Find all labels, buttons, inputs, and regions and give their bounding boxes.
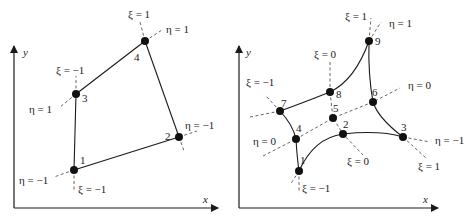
right-xi-zero-label-top: ξ = 0 [314,48,337,61]
right-xi-pos-label-bottom: ξ = 1 [418,160,440,173]
left-eta-pos-label-node3: η = 1 [29,103,52,115]
right-node-1 [295,167,303,175]
left-y-axis-label: y [22,46,28,58]
right-coord-lines [250,18,430,193]
left-node-1-label: 1 [80,154,86,166]
left-eta-neg-label-node1: η = −1 [19,174,48,186]
right-diagram: y x [239,10,464,208]
right-node-5 [329,114,337,122]
right-element-edges [280,41,403,171]
left-node-2-label: 2 [165,130,171,142]
right-node-8 [326,88,334,96]
right-nodes [276,37,407,175]
left-x-axis-label: x [202,193,208,205]
left-eta-pos-label-top: η = 1 [166,23,189,35]
left-xi-neg-label-node1: ξ = −1 [78,183,106,196]
right-node-6-label: 6 [372,86,378,98]
left-node-3 [72,90,80,98]
right-eta-zero-label-right: η = 0 [408,79,431,91]
right-y-axis-label: y [245,46,251,58]
right-node-3 [399,133,407,141]
right-node-5-label: 5 [333,102,339,114]
right-node-9 [365,37,373,45]
right-node-8-label: 8 [336,88,342,100]
right-eta-zero-label-left: η = 0 [253,135,276,147]
diagram-canvas: y x 1 2 3 [0,0,472,219]
left-node-4 [141,37,149,45]
right-node-3-label: 3 [401,121,407,133]
left-node-4-label: 4 [134,51,140,63]
right-node-9-label: 9 [375,35,381,47]
left-xi-neg-label-node3: ξ = −1 [56,64,84,77]
left-node-1 [70,166,78,174]
right-xi-neg-label-left: ξ = −1 [246,76,274,89]
left-diagram: y x 1 2 3 [14,8,218,208]
right-eta-neg-label-right: η = −1 [435,134,464,146]
right-xi-zero-label-bottom: ξ = 0 [347,155,370,168]
left-node-2 [175,133,183,141]
right-node-7-label: 7 [281,97,287,109]
right-node-4-label: 4 [296,122,302,134]
right-node-2-label: 2 [343,118,349,130]
right-eta-pos-label-top: η = 1 [389,17,412,29]
left-node-3-label: 3 [82,92,88,104]
right-node-6 [369,98,377,106]
right-node-4 [292,135,300,143]
right-x-axis-label: x [422,193,428,205]
right-axes: y x [239,46,438,208]
right-xi-pos-label-top: ξ = 1 [345,10,367,23]
right-node-1-label: 1 [300,154,306,166]
left-xi-pos-label: ξ = 1 [128,8,150,21]
left-eta-neg-label-node2: η = −1 [185,119,214,131]
right-xi-neg-label-bottom: ξ = −1 [302,182,330,195]
right-node-2 [339,130,347,138]
left-element-edges [74,41,179,170]
